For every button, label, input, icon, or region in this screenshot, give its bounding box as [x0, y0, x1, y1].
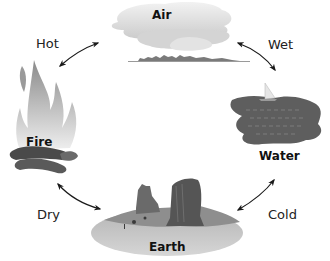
air-label: Air	[152, 9, 171, 21]
dry-label: Dry	[37, 208, 60, 221]
earth-label: Earth	[149, 241, 186, 253]
fire-label: Fire	[26, 136, 52, 148]
cloud-icon	[112, 2, 250, 62]
cold-arrow	[238, 180, 274, 210]
water-label: Water	[259, 150, 300, 162]
water-sailboat-icon	[230, 83, 321, 145]
hot-arrow	[60, 43, 98, 66]
flame-icon	[10, 60, 78, 173]
wet-label: Wet	[268, 38, 293, 51]
four-elements-diagram: Air Water Earth Fire Hot Wet Cold Dry	[0, 0, 330, 261]
cold-label: Cold	[268, 208, 297, 221]
hot-label: Hot	[36, 37, 59, 50]
dry-arrow	[58, 184, 100, 209]
